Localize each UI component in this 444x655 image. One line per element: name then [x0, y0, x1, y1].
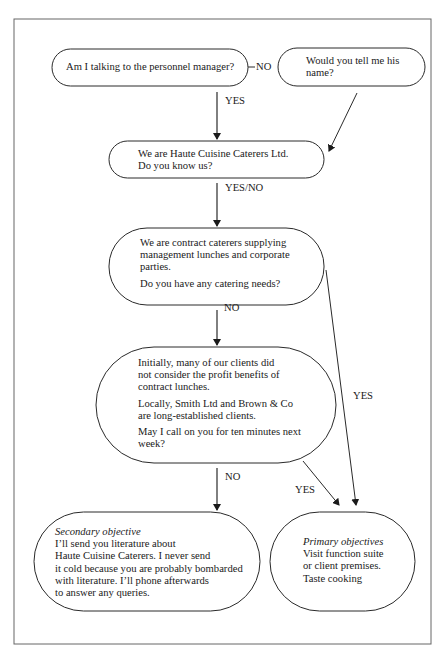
node-text: to answer any queries. [55, 587, 243, 599]
node-primary-objectives: Primary objectives Visit function suite … [303, 536, 384, 585]
edge-askname-to-intro [329, 93, 357, 151]
node-text: May I call on you for ten minutes next [138, 426, 301, 438]
edge-label-personnel-yes: YES [225, 95, 245, 107]
node-service-pitch: We are contract caterers supplying manag… [140, 237, 290, 290]
flowchart-canvas: Am I talking to the personnel manager? W… [0, 0, 444, 655]
node-text: I’ll send you literature about [55, 538, 243, 550]
edge-label-objection-yes: YES [295, 484, 315, 496]
node-text: contract lunches. [138, 381, 301, 393]
node-text: Locally, Smith Ltd and Brown & Co [138, 398, 301, 410]
node-title: Primary objectives [303, 536, 384, 548]
node-text: Visit function suite [303, 548, 384, 560]
node-text: it cold because you are probably bombard… [55, 563, 243, 575]
node-text: Do you know us? [138, 160, 288, 172]
edge-objection-yes [303, 461, 339, 505]
node-text: with literature. I’ll phone afterwards [55, 575, 243, 587]
edge-label-personnel-no: NO [256, 61, 271, 73]
node-text: Am I talking to the personnel manager? [66, 61, 234, 73]
node-text: Do you have any catering needs? [140, 278, 290, 290]
node-text: management lunches and corporate [140, 249, 290, 261]
node-objection-handling: Initially, many of our clients did not c… [138, 357, 301, 450]
node-text: Would you tell me his [306, 55, 399, 67]
edge-pitch-yes [326, 270, 356, 505]
node-secondary-objective: Secondary objective I’ll send you litera… [55, 526, 243, 599]
node-text: Haute Cuisine Caterers. I never send [55, 550, 243, 562]
edge-label-objection-no: NO [225, 471, 240, 483]
node-text: not consider the profit benefits of [138, 369, 301, 381]
edge-label-intro-yes-no: YES/NO [225, 182, 263, 194]
node-text: week? [138, 438, 301, 450]
node-text: Initially, many of our clients did [138, 357, 301, 369]
node-text: are long-established clients. [138, 410, 301, 422]
node-text: parties. [140, 261, 290, 273]
edge-label-pitch-no: NO [224, 302, 239, 314]
node-text: We are Haute Cuisine Caterers Ltd. [138, 148, 288, 160]
node-introduction: We are Haute Cuisine Caterers Ltd. Do yo… [138, 148, 288, 172]
edge-label-pitch-yes: YES [353, 390, 373, 402]
node-personnel-question: Am I talking to the personnel manager? [66, 61, 234, 73]
node-ask-name: Would you tell me his name? [306, 55, 399, 79]
node-title: Secondary objective [55, 526, 243, 538]
node-text: We are contract caterers supplying [140, 237, 290, 249]
node-text: or client premises. [303, 560, 384, 572]
node-text: Taste cooking [303, 573, 384, 585]
node-text: name? [306, 67, 399, 79]
